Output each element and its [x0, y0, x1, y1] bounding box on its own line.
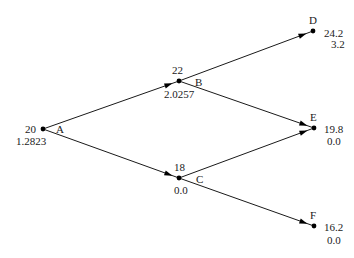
node-b-price: 22 [172, 64, 183, 76]
edge-b-d [179, 31, 313, 81]
node-d-dot [311, 29, 316, 34]
node-f-label: F [310, 209, 316, 221]
arrowhead-b-d [298, 33, 306, 38]
edge-c-f [179, 178, 314, 226]
edge-a-b [43, 81, 179, 129]
node-b-value: 2.0257 [164, 88, 195, 100]
node-e-price: 19.8 [324, 123, 344, 135]
node-e-dot [312, 126, 317, 131]
node-a-dot [41, 127, 46, 132]
edge-b-e [179, 81, 314, 128]
node-c-price: 18 [174, 161, 186, 173]
node-f-price: 16.2 [324, 221, 343, 233]
arrowhead-c-e [299, 130, 307, 135]
node-c-value: 0.0 [174, 184, 188, 196]
node-a-price: 20 [25, 123, 37, 135]
node-d-label: D [309, 14, 317, 26]
node-f-value: 0.0 [327, 234, 341, 246]
node-a-value: 1.2823 [16, 135, 47, 147]
node-b-label: B [195, 76, 202, 88]
arrowhead-c-f [299, 219, 307, 224]
node-e-label: E [310, 111, 317, 123]
binomial-tree-diagram: 20 1.2823 A 22 2.0257 B 18 0.0 C D 24.2 … [0, 0, 354, 258]
node-b-dot [177, 79, 182, 84]
node-c-label: C [196, 173, 203, 185]
node-c-dot [177, 176, 182, 181]
arrowhead-b-e [299, 121, 307, 126]
node-f-dot [312, 224, 317, 229]
arrowhead-a-c [164, 170, 172, 175]
edge-a-c [43, 129, 179, 178]
node-d-value: 3.2 [331, 38, 345, 50]
node-e-value: 0.0 [327, 135, 341, 147]
edge-c-e [179, 128, 314, 178]
node-a-label: A [56, 123, 64, 135]
